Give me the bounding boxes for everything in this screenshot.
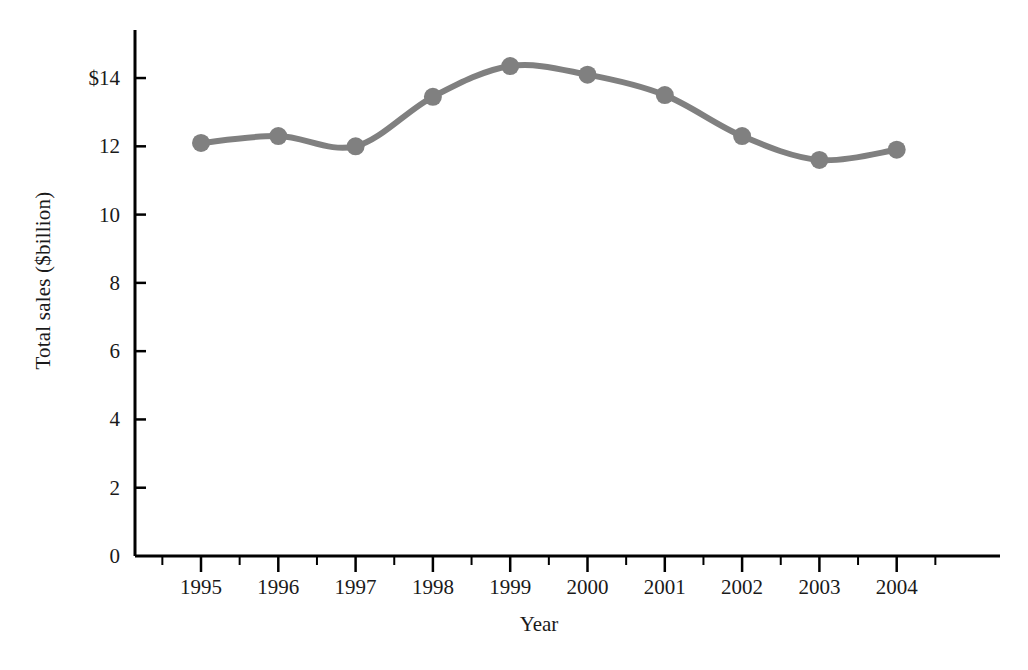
data-line-total-sales xyxy=(201,65,897,160)
data-point-marker[interactable] xyxy=(269,127,287,145)
y-tick-label: 4 xyxy=(40,407,120,432)
data-point-marker[interactable] xyxy=(733,127,751,145)
plot-area xyxy=(0,0,1028,670)
x-tick-label: 2004 xyxy=(876,575,918,600)
y-tick-label: 2 xyxy=(40,475,120,500)
y-tick-label: $14 xyxy=(40,66,120,91)
x-tick-label: 1999 xyxy=(489,575,531,600)
data-point-marker[interactable] xyxy=(656,86,674,104)
chart-figure: Total sales ($billion) Year 024681012$14… xyxy=(0,0,1028,670)
y-tick-label: 6 xyxy=(40,339,120,364)
data-point-marker[interactable] xyxy=(888,141,906,159)
x-tick-label: 2003 xyxy=(798,575,840,600)
data-point-marker[interactable] xyxy=(424,88,442,106)
x-tick-label: 1995 xyxy=(180,575,222,600)
x-tick-label: 1996 xyxy=(257,575,299,600)
x-tick-label: 1998 xyxy=(412,575,454,600)
y-tick-label: 8 xyxy=(40,270,120,295)
y-tick-label: 12 xyxy=(40,134,120,159)
x-tick-label: 1997 xyxy=(335,575,377,600)
data-point-marker[interactable] xyxy=(192,134,210,152)
data-point-marker[interactable] xyxy=(810,151,828,169)
x-tick-label: 2002 xyxy=(721,575,763,600)
data-point-marker[interactable] xyxy=(347,137,365,155)
x-tick-label: 2001 xyxy=(644,575,686,600)
y-tick-label: 10 xyxy=(40,202,120,227)
data-point-marker[interactable] xyxy=(501,57,519,75)
y-tick-label: 0 xyxy=(40,544,120,569)
x-tick-label: 2000 xyxy=(567,575,609,600)
data-point-marker[interactable] xyxy=(579,66,597,84)
